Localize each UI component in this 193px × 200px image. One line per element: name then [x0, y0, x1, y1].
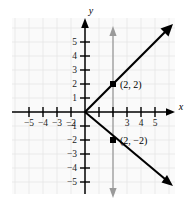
x-tick-label-neg5: −5: [24, 118, 34, 128]
y-tick-label-neg5: −5: [67, 177, 77, 187]
x-axis-label: x: [178, 101, 184, 112]
y-tick-label-2: 2: [72, 79, 77, 89]
point-label-2-2: (2, 2): [120, 79, 142, 91]
y-tick-label-neg4: −4: [67, 163, 77, 173]
coordinate-plane-svg: x y −5 −4 −3 −2 3 4 5 5 4 3 2 1 −1 −2 −3…: [0, 0, 193, 200]
y-axis-label: y: [88, 5, 94, 16]
y-tick-label-neg2: −2: [67, 135, 77, 145]
x-tick-label-neg4: −4: [38, 118, 48, 128]
y-tick-label-5: 5: [72, 37, 77, 47]
y-tick-label-neg1: −1: [67, 121, 77, 131]
y-tick-label-1: 1: [72, 93, 77, 103]
x-tick-label-4: 4: [139, 118, 144, 128]
graph-figure: x y −5 −4 −3 −2 3 4 5 5 4 3 2 1 −1 −2 −3…: [0, 0, 193, 200]
y-tick-label-4: 4: [72, 51, 77, 61]
x-tick-label-3: 3: [125, 118, 130, 128]
point-label-2-neg2: (2, −2): [120, 135, 147, 147]
x-tick-label-5: 5: [153, 118, 158, 128]
y-tick-label-neg3: −3: [67, 149, 77, 159]
y-tick-label-3: 3: [72, 65, 77, 75]
x-tick-label-neg3: −3: [52, 118, 62, 128]
point-marker-2-neg2: [110, 137, 116, 143]
point-marker-2-2: [110, 81, 116, 87]
